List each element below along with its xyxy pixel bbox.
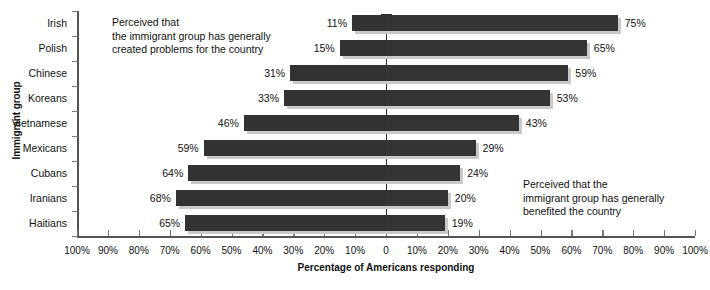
bar-cubans-right xyxy=(386,165,460,181)
bar-vietnamese-right xyxy=(386,115,519,131)
x-axis-tick-label: 100% xyxy=(675,245,710,256)
category-label-chinese: Chinese xyxy=(0,61,72,86)
diverging-bar-chart: Immigrant group IrishPolishChineseKorean… xyxy=(0,0,710,290)
bar-row: 31%59% xyxy=(77,61,695,86)
y-axis-tick xyxy=(72,236,78,237)
bar-iranians-left xyxy=(176,190,386,206)
category-label-irish: Irish xyxy=(0,11,72,36)
bar-row: 59%29% xyxy=(77,136,695,161)
category-label-column: IrishPolishChineseKoreansVietnameseMexic… xyxy=(0,11,72,236)
bar-value-chinese-left: 31% xyxy=(242,65,285,81)
bar-value-mexicans-left: 59% xyxy=(156,140,199,156)
bar-value-vietnamese-right: 43% xyxy=(526,115,569,131)
bar-cubans-left xyxy=(188,165,386,181)
bar-value-koreans-left: 33% xyxy=(236,90,279,106)
bar-row: 33%53% xyxy=(77,86,695,111)
bar-value-chinese-right: 59% xyxy=(575,65,618,81)
x-axis-tick-labels: 100%90%80%70%60%50%40%30%20%10%010%20%30… xyxy=(77,245,695,259)
bar-haitians-right xyxy=(386,215,445,231)
bar-value-haitians-right: 19% xyxy=(452,215,495,231)
bar-vietnamese-left xyxy=(244,115,386,131)
bar-value-vietnamese-left: 46% xyxy=(196,115,239,131)
category-label-koreans: Koreans xyxy=(0,86,72,111)
bar-value-polish-right: 65% xyxy=(594,40,637,56)
bar-value-mexicans-right: 29% xyxy=(483,140,526,156)
category-label-polish: Polish xyxy=(0,36,72,61)
annotation-left-series: Perceived that the immigrant group has g… xyxy=(112,16,322,57)
bar-koreans-left xyxy=(284,90,386,106)
bar-koreans-right xyxy=(386,90,550,106)
annotation-right-series: Perceived that the immigrant group has g… xyxy=(523,178,703,219)
bar-polish-left xyxy=(340,40,386,56)
bar-mexicans-left xyxy=(204,140,386,156)
category-label-cubans: Cubans xyxy=(0,161,72,186)
bar-iranians-right xyxy=(386,190,448,206)
category-label-vietnamese: Vietnamese xyxy=(0,111,72,136)
bar-value-irish-right: 75% xyxy=(625,15,668,31)
x-axis-line xyxy=(77,236,695,238)
x-axis-title: Percentage of Americans responding xyxy=(77,262,695,273)
bar-polish-right xyxy=(386,40,587,56)
category-label-haitians: Haitians xyxy=(0,211,72,236)
bar-irish-right xyxy=(386,15,618,31)
bar-value-koreans-right: 53% xyxy=(557,90,600,106)
bar-row: 46%43% xyxy=(77,111,695,136)
bar-value-cubans-right: 24% xyxy=(467,165,510,181)
x-axis-tick xyxy=(695,230,696,236)
bar-mexicans-right xyxy=(386,140,476,156)
bar-value-cubans-left: 64% xyxy=(140,165,183,181)
bar-haitians-left xyxy=(185,215,386,231)
bar-chinese-left xyxy=(290,65,386,81)
bar-value-iranians-left: 68% xyxy=(128,190,171,206)
bar-chinese-right xyxy=(386,65,568,81)
bar-irish-left xyxy=(352,15,386,31)
category-label-mexicans: Mexicans xyxy=(0,136,72,161)
bar-value-haitians-left: 65% xyxy=(137,215,180,231)
bar-value-iranians-right: 20% xyxy=(455,190,498,206)
category-label-iranians: Iranians xyxy=(0,186,72,211)
